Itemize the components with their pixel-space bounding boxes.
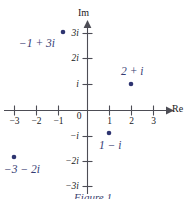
point-label-neg3-minus-2i: −3 − 2i [4,164,40,176]
complex-plane-figure: Re Im 0 −3 −2 −1 1 2 3 3i 2i i −i −2i −3… [0,0,186,199]
point-label-1-minus-i: 1 − i [99,140,121,152]
tick-label-re-neg2: −2 [31,117,42,127]
imaginary-axis-label: Im [78,8,89,18]
tick-label-re-3: 3 [149,117,158,127]
data-point-1-minus-i [107,131,112,136]
tick-label-im-neg2i: −2i [61,157,79,167]
imaginary-axis-arrowhead [84,20,92,28]
tick-label-im-i: i [66,80,79,90]
tick-label-im-3i: 3i [66,29,79,39]
tick-label-im-neg-i: −i [63,132,79,142]
point-label-2-plus-i: 2 + i [121,66,143,78]
data-point-neg1-plus-3i [61,30,66,35]
real-axis-label: Re [172,104,183,114]
tick-label-im-2i: 2i [66,54,79,64]
tick-label-re-1: 1 [105,117,114,127]
origin-label: 0 [74,112,84,122]
data-point-neg3-minus-2i [12,155,17,160]
tick-label-re-neg1: −1 [53,117,64,127]
data-point-2-plus-i [129,82,134,87]
figure-caption: Figure 1 [0,192,186,199]
tick-label-re-2: 2 [127,117,136,127]
point-label-neg1-plus-3i: −1 + 3i [19,38,55,50]
tick-label-re-neg3: −3 [9,117,20,127]
